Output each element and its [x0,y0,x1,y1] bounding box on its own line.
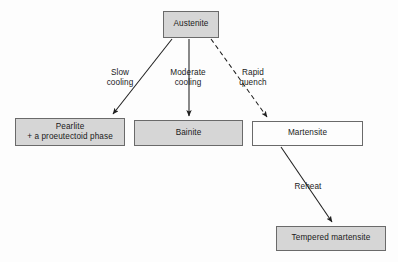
edge-label-rapid-quench-line-2: quench [239,78,266,87]
node-pearlite-line-2: + a proeutectoid phase [27,132,113,143]
node-austenite[interactable]: Austenite [163,11,219,38]
edge-label-reheat: Reheat [288,182,328,192]
edge-label-moderate-cooling-line-1: Moderate [170,68,205,77]
node-martensite[interactable]: Martensite [252,121,363,146]
edge-label-reheat-line-1: Reheat [294,182,321,191]
node-austenite-line-1: Austenite [173,19,208,30]
node-martensite-line-1: Martensite [288,128,327,139]
edge-label-slow-cooling: Slow cooling [98,68,142,88]
node-bainite[interactable]: Bainite [134,120,243,146]
node-pearlite-line-1: Pearlite [56,122,85,133]
node-tempered-martensite-line-1: Tempered martensite [292,233,371,244]
node-bainite-line-1: Bainite [176,128,202,139]
edge-label-moderate-cooling-line-2: cooling [175,78,202,87]
edge-label-rapid-quench-line-1: Rapid [242,68,264,77]
edge-label-rapid-quench: Rapid quench [231,68,275,88]
edge-label-slow-cooling-line-2: cooling [107,78,134,87]
node-tempered-martensite[interactable]: Tempered martensite [276,226,386,251]
node-pearlite[interactable]: Pearlite + a proeutectoid phase [15,118,125,146]
diagram-canvas: Austenite Pearlite + a proeutectoid phas… [0,0,398,262]
edge-label-moderate-cooling: Moderate cooling [163,68,213,88]
edge-label-slow-cooling-line-1: Slow [111,68,129,77]
